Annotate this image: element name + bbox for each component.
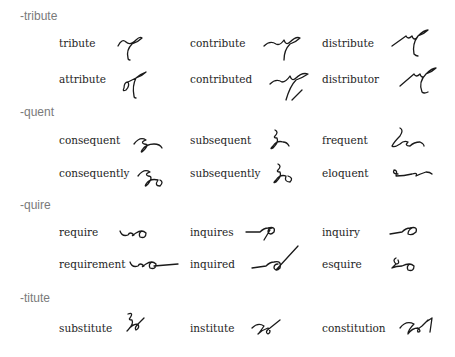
- word-contribute: contribute: [190, 37, 245, 49]
- word-inquires: inquires: [190, 226, 234, 238]
- word-subsequent: subsequent: [190, 134, 251, 146]
- section-title-titute: -titute: [20, 291, 50, 305]
- shorthand-contribute-icon: [262, 32, 302, 62]
- shorthand-substitute-icon: [124, 310, 152, 338]
- shorthand-inquiry-icon: [388, 222, 422, 242]
- word-inquired: inquired: [190, 258, 235, 270]
- shorthand-distribute-icon: [390, 26, 430, 60]
- shorthand-requirement-icon: [128, 256, 182, 274]
- word-constitution: constitution: [322, 322, 386, 334]
- section-title-quent: -quent: [20, 105, 54, 119]
- section-title-tribute: -tribute: [20, 9, 57, 23]
- shorthand-inquired-icon: [250, 240, 300, 280]
- shorthand-esquire-icon: [390, 254, 420, 278]
- word-esquire: esquire: [322, 258, 362, 270]
- shorthand-consequently-icon: [136, 166, 170, 190]
- shorthand-distributor-icon: [398, 62, 438, 98]
- shorthand-frequent-icon: [390, 126, 426, 152]
- word-contributed: contributed: [190, 73, 252, 85]
- shorthand-contributed-icon: [268, 66, 310, 102]
- word-consequent: consequent: [59, 134, 120, 146]
- word-eloquent: eloquent: [322, 167, 369, 179]
- word-subsequently: subsequently: [190, 167, 260, 179]
- word-require: require: [59, 226, 98, 238]
- section-title-quire: -quire: [20, 198, 51, 212]
- word-tribute: tribute: [59, 37, 96, 49]
- shorthand-consequent-icon: [132, 134, 166, 156]
- word-attribute: attribute: [59, 73, 106, 85]
- word-consequently: consequently: [59, 167, 130, 179]
- shorthand-institute-icon: [250, 312, 286, 338]
- word-substitute: substitute: [59, 322, 112, 334]
- word-distributor: distributor: [322, 73, 379, 85]
- shorthand-subsequent-icon: [267, 128, 291, 154]
- word-requirement: requirement: [59, 258, 125, 270]
- word-distribute: distribute: [322, 37, 374, 49]
- shorthand-require-icon: [118, 225, 152, 243]
- shorthand-attribute-icon: [120, 66, 150, 100]
- shorthand-subsequently-icon: [270, 162, 296, 188]
- word-institute: institute: [190, 322, 235, 334]
- word-frequent: frequent: [322, 134, 368, 146]
- shorthand-eloquent-icon: [390, 164, 436, 182]
- shorthand-tribute-icon: [116, 32, 146, 62]
- word-inquiry: inquiry: [322, 226, 360, 238]
- shorthand-constitution-icon: [398, 310, 438, 338]
